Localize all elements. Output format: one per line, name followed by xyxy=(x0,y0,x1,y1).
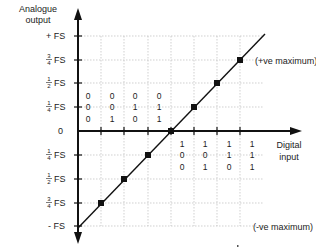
svg-text:0: 0 xyxy=(180,150,185,160)
svg-text:4: 4 xyxy=(47,107,51,113)
svg-text:2: 2 xyxy=(47,179,51,185)
y-axis xyxy=(74,8,82,244)
svg-text:FS: FS xyxy=(54,150,66,160)
svg-text:4: 4 xyxy=(47,155,51,161)
codes-left: 0 0 0 0 0 1 0 1 0 0 1 1 xyxy=(86,91,162,124)
svg-text:1: 1 xyxy=(180,139,185,149)
dac-transfer-diagram: Analogue output Digital input (+ve maxim… xyxy=(0,0,316,250)
svg-text:FS: FS xyxy=(54,102,66,112)
svg-text:3: 3 xyxy=(47,196,51,202)
svg-text:FS: FS xyxy=(54,78,66,88)
svg-text:1: 1 xyxy=(133,102,138,112)
svg-text:3: 3 xyxy=(47,53,51,59)
y-label-1-2-fs: 1 2 FS xyxy=(46,76,66,89)
svg-text:1: 1 xyxy=(47,148,51,154)
svg-text:1: 1 xyxy=(47,76,51,82)
svg-text:0: 0 xyxy=(86,91,91,101)
svg-text:1: 1 xyxy=(250,139,255,149)
svg-text:1: 1 xyxy=(157,102,162,112)
y-axis-labels: + FS 3 4 FS 1 2 FS 1 4 FS 0 1 4 FS 1 xyxy=(46,31,66,231)
svg-text:1: 1 xyxy=(227,150,232,160)
y-axis-title-line1: Analogue xyxy=(19,4,57,14)
annotation-negative-max: (-ve maximum) xyxy=(253,222,313,232)
y-label-1-4-fs: 1 4 FS xyxy=(46,100,66,113)
svg-text:4: 4 xyxy=(47,60,51,66)
svg-text:0: 0 xyxy=(86,102,91,112)
svg-text:1: 1 xyxy=(203,139,208,149)
svg-text:1: 1 xyxy=(110,114,115,124)
y-label-neg-1-2-fs: 1 2 FS xyxy=(46,172,66,185)
x-axis xyxy=(78,127,302,135)
svg-text:0: 0 xyxy=(203,150,208,160)
svg-text:1: 1 xyxy=(203,162,208,172)
svg-text:0: 0 xyxy=(157,91,162,101)
y-label-minus-fs: - FS xyxy=(48,221,65,231)
y-axis-title-line2: output xyxy=(25,15,51,25)
stray-mark xyxy=(237,245,239,247)
y-label-plus-fs: + FS xyxy=(46,31,65,41)
arrow-down-icon xyxy=(74,232,82,244)
arrow-right-icon xyxy=(290,127,302,135)
svg-text:1: 1 xyxy=(227,139,232,149)
x-axis-title-line1: Digital xyxy=(276,140,301,150)
svg-text:FS: FS xyxy=(54,198,66,208)
svg-text:0: 0 xyxy=(86,114,91,124)
y-label-neg-3-4-fs: 3 4 FS xyxy=(46,196,66,209)
y-label-neg-1-4-fs: 1 4 FS xyxy=(46,148,66,161)
x-axis-title-line2: input xyxy=(279,152,299,162)
svg-text:1: 1 xyxy=(250,150,255,160)
y-label-zero: 0 xyxy=(58,126,63,136)
svg-text:1: 1 xyxy=(47,100,51,106)
svg-text:0: 0 xyxy=(227,162,232,172)
svg-text:1: 1 xyxy=(157,114,162,124)
annotation-positive-max: (+ve maximum) xyxy=(255,56,316,66)
svg-text:0: 0 xyxy=(133,91,138,101)
svg-text:0: 0 xyxy=(110,102,115,112)
y-label-3-4-fs: 3 4 FS xyxy=(46,53,66,66)
svg-text:1: 1 xyxy=(250,162,255,172)
svg-text:FS: FS xyxy=(54,174,66,184)
svg-text:0: 0 xyxy=(180,162,185,172)
svg-text:0: 0 xyxy=(133,114,138,124)
svg-text:2: 2 xyxy=(47,83,51,89)
svg-text:4: 4 xyxy=(47,203,51,209)
svg-text:0: 0 xyxy=(110,91,115,101)
svg-text:1: 1 xyxy=(47,172,51,178)
svg-text:FS: FS xyxy=(54,55,66,65)
codes-right: 1 0 0 1 0 1 1 1 0 1 1 1 xyxy=(180,139,255,172)
arrow-up-icon xyxy=(74,8,82,20)
